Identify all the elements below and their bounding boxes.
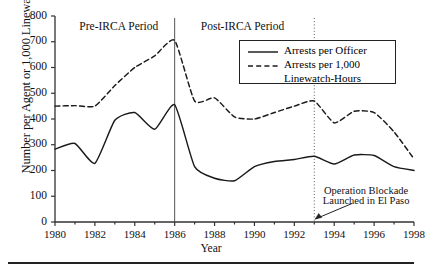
x-tick-label: 1986 [155,228,195,240]
x-tick-label: 1982 [75,228,115,240]
y-tick-label: 700 [19,34,47,46]
x-tick-label: 1996 [354,228,394,240]
x-tick-label: 1988 [195,228,235,240]
legend-label-2-continuation: Linewatch-Hours [284,72,361,84]
y-tick-label: 500 [19,86,47,98]
chart-legend: Arrests per OfficerArrests per 1,000Line… [239,40,396,84]
y-tick-label: 0 [19,215,47,227]
x-tick-label: 1990 [234,228,274,240]
x-tick-label: 1998 [394,228,430,240]
y-tick-label: 100 [19,189,47,201]
y-tick-label: 800 [19,9,47,21]
pre-irca-period: Pre-IRCA Period [79,20,158,32]
y-tick-label: 600 [19,60,47,72]
annotation-arrowhead [315,213,322,219]
post-irca-period: Post-IRCA Period [201,20,284,32]
x-axis-label: Year [0,242,422,254]
legend-label-2: Arrests per 1,000 [284,58,360,70]
x-tick-label: 1994 [314,228,354,240]
x-tick-label: 1992 [274,228,314,240]
operation-blockade-line2: Launched in El Paso [323,196,410,208]
y-tick-label: 200 [19,163,47,175]
x-tick-label: 1980 [35,228,75,240]
series-line-1 [55,105,414,182]
y-tick-label: 400 [19,112,47,124]
y-tick-label: 300 [19,137,47,149]
page-divider-rule [8,262,414,264]
x-tick-label: 1984 [115,228,155,240]
legend-label-1: Arrests per Officer [284,44,367,56]
